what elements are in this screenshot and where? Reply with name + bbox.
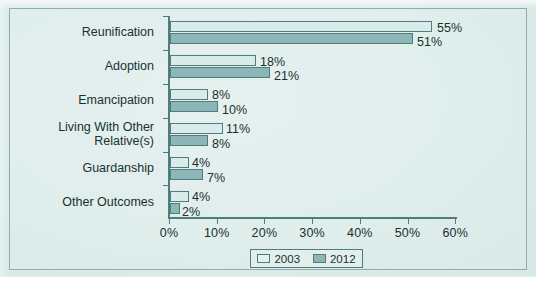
y-tick-mark xyxy=(163,16,169,17)
x-tick-mark xyxy=(360,219,361,224)
category-label-adoption: Adoption xyxy=(0,60,154,74)
legend-label-2012: 2012 xyxy=(330,253,356,265)
category-label-emancipation: Emancipation xyxy=(0,94,154,108)
bar-adoption-2012[interactable] xyxy=(170,67,270,78)
bar-emancipation-2012[interactable] xyxy=(170,101,218,112)
page-top-margin xyxy=(0,0,540,3)
bar-adoption-2003[interactable] xyxy=(170,55,256,66)
bar-chart-plot: 0% 10% 20% 30% 40% 50% 60% Reunification… xyxy=(0,0,540,288)
bar-value-living-with-other-relatives-2003: 11% xyxy=(226,123,250,135)
bar-living-with-other-relatives-2003[interactable] xyxy=(170,123,223,134)
bar-value-guardanship-2012: 7% xyxy=(207,172,225,184)
bar-emancipation-2003[interactable] xyxy=(170,89,208,100)
legend-item-2012[interactable]: 2012 xyxy=(313,253,356,265)
bar-guardanship-2003[interactable] xyxy=(170,157,189,168)
page-right-margin xyxy=(536,0,540,288)
y-axis-line xyxy=(168,16,170,218)
bar-value-emancipation-2012: 10% xyxy=(222,104,247,116)
x-tick-mark xyxy=(455,219,456,224)
category-label-living-with-other-relatives-line2: Relative(s) xyxy=(0,135,154,149)
category-label-reunification: Reunification xyxy=(0,26,154,40)
bar-reunification-2012[interactable] xyxy=(170,33,413,44)
bar-value-reunification-2003: 55% xyxy=(437,22,462,34)
legend-label-2003: 2003 xyxy=(274,253,300,265)
bar-value-living-with-other-relatives-2012: 8% xyxy=(212,138,230,150)
scanned-page: 0% 10% 20% 30% 40% 50% 60% Reunification… xyxy=(0,0,540,288)
chart-legend[interactable]: 2003 2012 xyxy=(250,249,363,268)
bar-other-outcomes-2012[interactable] xyxy=(170,203,180,214)
y-tick-mark xyxy=(163,84,169,85)
x-tick-mark xyxy=(169,219,170,224)
legend-swatch-2003-icon xyxy=(257,254,270,263)
category-label-guardanship: Guardanship xyxy=(0,162,154,176)
x-tick-mark xyxy=(217,219,218,224)
bar-value-other-outcomes-2012: 2% xyxy=(182,206,200,218)
bar-value-other-outcomes-2003: 4% xyxy=(192,191,210,203)
bar-value-emancipation-2003: 8% xyxy=(212,89,230,101)
y-tick-mark xyxy=(163,152,169,153)
category-label-living-with-other-relatives-line1: Living With Other xyxy=(0,121,154,135)
bar-value-guardanship-2003: 4% xyxy=(192,157,210,169)
x-tick-mark xyxy=(408,219,409,224)
bar-guardanship-2012[interactable] xyxy=(170,169,203,180)
category-label-other-outcomes: Other Outcomes xyxy=(0,196,154,210)
x-tick-mark xyxy=(312,219,313,224)
bar-reunification-2003[interactable] xyxy=(170,21,432,32)
legend-item-2003[interactable]: 2003 xyxy=(257,253,300,265)
bar-value-adoption-2012: 21% xyxy=(274,70,299,82)
y-tick-mark xyxy=(163,118,169,119)
bar-value-reunification-2012: 51% xyxy=(417,36,442,48)
x-tick-label-60: 60% xyxy=(425,226,485,240)
y-tick-mark xyxy=(163,50,169,51)
page-bottom-margin xyxy=(0,277,540,288)
bar-living-with-other-relatives-2012[interactable] xyxy=(170,135,208,146)
bar-other-outcomes-2003[interactable] xyxy=(170,191,189,202)
legend-swatch-2012-icon xyxy=(313,254,326,263)
y-tick-mark xyxy=(163,185,169,186)
x-tick-mark xyxy=(264,219,265,224)
